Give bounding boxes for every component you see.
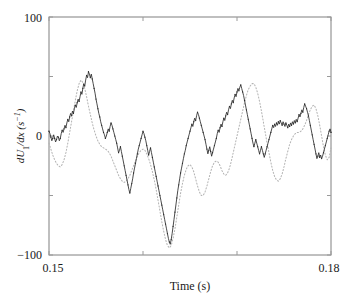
data-point-marker bbox=[141, 138, 142, 139]
data-point-marker bbox=[325, 145, 326, 146]
data-point-marker bbox=[99, 116, 100, 117]
data-point-marker bbox=[157, 185, 158, 186]
data-point-marker bbox=[103, 132, 104, 133]
data-point-marker bbox=[214, 145, 215, 146]
data-point-marker bbox=[235, 94, 236, 95]
data-point-marker bbox=[313, 144, 314, 145]
data-point-marker bbox=[165, 223, 166, 224]
data-point-marker bbox=[189, 131, 190, 132]
series-measured-line bbox=[49, 72, 331, 245]
x-axis-ticks bbox=[49, 17, 331, 255]
data-point-marker bbox=[124, 165, 125, 166]
data-point-marker bbox=[248, 119, 249, 120]
data-point-marker bbox=[167, 233, 168, 234]
data-point-marker bbox=[293, 123, 294, 124]
data-point-marker bbox=[291, 125, 292, 126]
data-point-marker bbox=[210, 151, 211, 152]
data-point-marker bbox=[133, 172, 134, 173]
y-axis-title-units-exponent: −1 bbox=[13, 112, 22, 121]
data-point-marker bbox=[206, 148, 207, 149]
data-point-marker bbox=[60, 138, 61, 139]
data-point-marker bbox=[122, 156, 123, 157]
data-point-marker bbox=[315, 153, 316, 154]
data-point-marker bbox=[188, 138, 189, 139]
data-point-marker bbox=[255, 139, 256, 140]
data-point-marker bbox=[169, 241, 170, 242]
data-point-marker bbox=[131, 183, 132, 184]
data-point-marker bbox=[127, 184, 128, 185]
data-point-marker bbox=[75, 104, 76, 105]
data-point-marker bbox=[259, 153, 260, 154]
data-point-marker bbox=[92, 78, 93, 79]
data-point-marker bbox=[327, 138, 328, 139]
data-point-marker bbox=[56, 139, 57, 140]
data-point-marker bbox=[84, 85, 85, 86]
data-point-marker bbox=[105, 138, 106, 139]
data-point-marker bbox=[298, 114, 299, 115]
data-point-marker bbox=[125, 175, 126, 176]
data-point-marker bbox=[204, 139, 205, 140]
data-point-marker bbox=[317, 156, 318, 157]
figure-container: 100 0 −100 0.15 0.18 Time (s) dU1/dx (s−… bbox=[0, 0, 355, 300]
data-point-marker bbox=[71, 115, 72, 116]
data-point-marker bbox=[172, 226, 173, 227]
data-point-marker bbox=[231, 103, 232, 104]
data-point-marker bbox=[110, 122, 111, 123]
data-point-marker bbox=[266, 146, 267, 147]
data-point-marker bbox=[250, 128, 251, 129]
data-point-marker bbox=[225, 115, 226, 116]
data-point-marker bbox=[159, 195, 160, 196]
x-axis-tick-label-max: 0.18 bbox=[319, 261, 340, 275]
data-point-marker bbox=[287, 127, 288, 128]
data-point-marker bbox=[274, 123, 275, 124]
data-point-marker bbox=[216, 138, 217, 139]
data-point-marker bbox=[186, 145, 187, 146]
data-point-marker bbox=[107, 132, 108, 133]
data-point-marker bbox=[257, 146, 258, 147]
data-point-marker bbox=[251, 138, 252, 139]
data-point-marker bbox=[150, 147, 151, 148]
data-point-marker bbox=[90, 77, 91, 78]
data-point-marker bbox=[212, 152, 213, 153]
data-point-marker bbox=[129, 193, 130, 194]
data-point-marker bbox=[116, 143, 117, 144]
data-point-marker bbox=[263, 153, 264, 154]
data-point-marker bbox=[54, 138, 55, 139]
data-point-marker bbox=[171, 239, 172, 240]
data-point-marker bbox=[321, 158, 322, 159]
data-point-marker bbox=[114, 135, 115, 136]
data-point-marker bbox=[101, 125, 102, 126]
data-point-marker bbox=[236, 91, 237, 92]
y-axis-tick-label-max: 100 bbox=[24, 11, 42, 25]
y-axis-ticks bbox=[49, 17, 331, 255]
data-point-marker bbox=[135, 163, 136, 164]
data-point-marker bbox=[300, 113, 301, 114]
data-point-marker bbox=[240, 84, 241, 85]
data-point-marker bbox=[69, 116, 70, 117]
data-point-marker bbox=[184, 153, 185, 154]
data-point-marker bbox=[312, 134, 313, 135]
data-point-marker bbox=[280, 120, 281, 121]
data-point-marker bbox=[58, 137, 59, 138]
data-point-marker bbox=[276, 122, 277, 123]
data-point-marker bbox=[261, 146, 262, 147]
data-point-marker bbox=[229, 106, 230, 107]
data-point-marker bbox=[137, 153, 138, 154]
data-point-marker bbox=[199, 118, 200, 119]
y-axis-tick-label-zero: 0 bbox=[36, 129, 42, 143]
data-point-marker bbox=[282, 125, 283, 126]
data-point-marker bbox=[268, 139, 269, 140]
data-point-marker bbox=[304, 103, 305, 104]
data-point-marker bbox=[193, 121, 194, 122]
data-point-marker bbox=[310, 125, 311, 126]
data-point-marker bbox=[219, 127, 220, 128]
data-point-marker bbox=[78, 101, 79, 102]
data-point-marker bbox=[329, 131, 330, 132]
data-point-marker bbox=[80, 91, 81, 92]
data-point-marker bbox=[208, 150, 209, 151]
data-point-marker bbox=[176, 197, 177, 198]
data-point-marker bbox=[63, 128, 64, 129]
data-point-marker bbox=[180, 172, 181, 173]
data-point-marker bbox=[270, 132, 271, 133]
data-point-marker bbox=[272, 125, 273, 126]
